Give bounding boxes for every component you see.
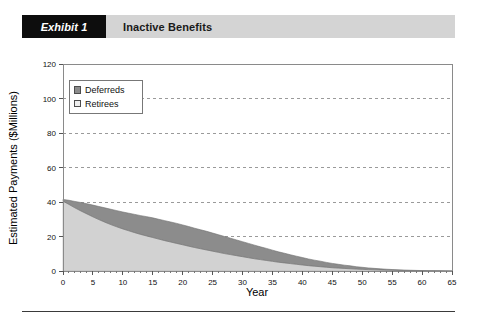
x-axis-ticks: 05101520253035404550556065 (61, 271, 457, 287)
x-tick-label-65: 65 (448, 278, 457, 287)
legend-swatch-retirees (74, 100, 81, 107)
chart-container: 020406080100120 051015202530354045505560… (0, 44, 477, 302)
legend-label-retirees: Retirees (85, 99, 119, 109)
x-tick-label-0: 0 (61, 278, 66, 287)
x-tick-label-35: 35 (268, 278, 277, 287)
x-axis-title: Year (246, 286, 269, 298)
y-tick-label-20: 20 (47, 233, 56, 242)
legend-label-deferreds: Deferreds (85, 85, 125, 95)
x-tick-label-45: 45 (328, 278, 337, 287)
x-tick-label-50: 50 (358, 278, 367, 287)
exhibit-title-bar: Inactive Benefits (106, 15, 455, 38)
x-tick-label-15: 15 (148, 278, 157, 287)
x-tick-label-55: 55 (388, 278, 397, 287)
y-tick-label-120: 120 (43, 60, 57, 69)
x-tick-label-25: 25 (208, 278, 217, 287)
x-tick-label-5: 5 (91, 278, 96, 287)
y-axis-ticks: 020406080100120 (43, 60, 63, 276)
stacked-area-chart: 020406080100120 051015202530354045505560… (0, 44, 477, 302)
y-tick-label-80: 80 (47, 129, 56, 138)
footer-divider (22, 311, 455, 312)
exhibit-title: Inactive Benefits (123, 21, 212, 33)
y-tick-label-60: 60 (47, 164, 56, 173)
y-axis-title: Estimated Payments ($Millions) (7, 91, 19, 245)
exhibit-header: Exhibit 1 Inactive Benefits (22, 15, 455, 38)
chart-legend: Deferreds Retirees (69, 80, 142, 113)
x-tick-label-60: 60 (418, 278, 427, 287)
y-tick-label-0: 0 (52, 267, 57, 276)
x-tick-label-20: 20 (178, 278, 187, 287)
y-tick-label-40: 40 (47, 198, 56, 207)
y-tick-label-100: 100 (43, 95, 57, 104)
x-tick-label-40: 40 (298, 278, 307, 287)
legend-swatch-deferreds (74, 87, 81, 94)
x-tick-label-10: 10 (118, 278, 127, 287)
exhibit-number-tag: Exhibit 1 (22, 15, 106, 38)
